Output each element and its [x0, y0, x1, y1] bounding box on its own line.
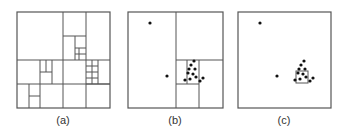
data-point: [299, 63, 302, 66]
panel-c: [238, 12, 331, 108]
data-point: [308, 79, 311, 82]
data-point: [188, 77, 191, 80]
data-point: [201, 76, 204, 79]
data-point: [298, 77, 301, 80]
data-point: [275, 74, 278, 77]
data-point: [189, 63, 192, 66]
data-point: [194, 75, 197, 78]
caption-b: (b): [155, 114, 195, 126]
data-point: [198, 79, 201, 82]
caption-c: (c): [264, 114, 304, 126]
data-point: [293, 78, 296, 81]
data-point: [193, 67, 196, 70]
data-point: [301, 72, 304, 75]
data-point: [297, 67, 300, 70]
data-point: [258, 21, 261, 24]
data-point: [311, 76, 314, 79]
caption-a: (a): [43, 114, 83, 126]
data-point: [186, 71, 189, 74]
panel-frame: [238, 12, 331, 108]
data-point: [165, 74, 168, 77]
data-point: [303, 67, 306, 70]
data-point: [304, 75, 307, 78]
data-point: [192, 59, 195, 62]
data-point: [183, 78, 186, 81]
data-point: [191, 72, 194, 75]
data-point: [148, 21, 151, 24]
data-point: [296, 71, 299, 74]
panel-b: [128, 12, 223, 108]
panel-a: [17, 12, 110, 108]
data-point: [187, 67, 190, 70]
data-point: [302, 59, 305, 62]
